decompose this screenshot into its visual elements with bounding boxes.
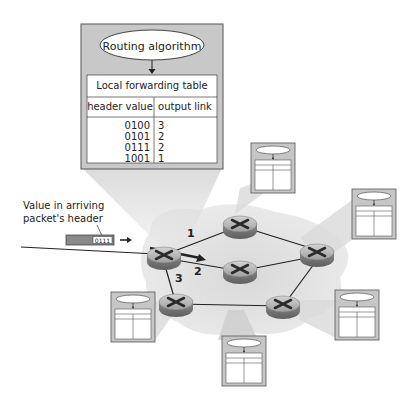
router-icon <box>147 247 181 270</box>
packet-header-value: 0111 <box>95 237 110 244</box>
row-link: 2 <box>158 142 164 153</box>
row-header: 1001 <box>125 153 150 164</box>
main-forwarding-box: Routing algorithm Local forwarding table… <box>81 24 223 169</box>
packet-label-line1: Value in arriving <box>23 200 104 211</box>
table-title: Local forwarding table <box>96 80 207 91</box>
router-icon <box>300 244 334 267</box>
forwarding-table-icon <box>251 143 295 193</box>
link-label-2: 2 <box>194 265 202 278</box>
row-header: 0100 <box>125 120 150 131</box>
arrow-right-icon <box>120 237 132 243</box>
routing-algorithm-label: Routing algorithm <box>103 40 202 53</box>
forwarding-table-icon <box>335 290 379 340</box>
row-link: 1 <box>158 153 164 164</box>
forwarding-table-icon <box>352 189 396 239</box>
column-output-link: output link <box>158 101 212 112</box>
packet: 0111 <box>66 235 114 245</box>
forwarding-table-icon <box>222 336 266 386</box>
link-label-1: 1 <box>187 227 195 240</box>
router-icon <box>159 294 193 317</box>
row-header: 0101 <box>125 131 150 142</box>
router-icon <box>223 261 257 284</box>
row-link: 2 <box>158 131 164 142</box>
row-header: 0111 <box>125 142 150 153</box>
row-link: 3 <box>158 120 164 131</box>
link-label-3: 3 <box>175 272 183 285</box>
router-icon <box>266 296 300 319</box>
router-icon <box>223 216 257 239</box>
forwarding-table-icon <box>111 292 155 342</box>
column-header-value: header value <box>87 101 153 112</box>
packet-label-line2: packet's header <box>23 213 104 224</box>
funnel-bottom-right <box>296 300 340 340</box>
network-diagram: 1 2 3 Routing algorithm Local forwarding… <box>0 0 415 405</box>
